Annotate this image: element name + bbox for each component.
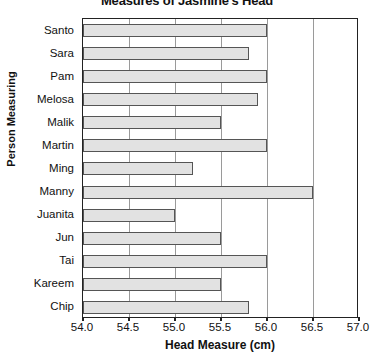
x-axis-tick-label: 56.5 bbox=[290, 321, 334, 333]
y-axis-tick-label: Santo bbox=[0, 24, 74, 36]
bar-row bbox=[83, 204, 357, 227]
plot-area bbox=[82, 18, 358, 318]
y-axis-tick-label: Chip bbox=[0, 300, 74, 312]
y-axis-tick-label: Juanita bbox=[0, 208, 74, 220]
y-axis-tick-label: Sara bbox=[0, 47, 74, 59]
x-axis-tick-label: 54.5 bbox=[106, 321, 150, 333]
bar-row bbox=[83, 181, 357, 204]
y-axis-tick-label: Martin bbox=[0, 139, 74, 151]
bar bbox=[83, 116, 221, 129]
x-axis-tick-label: 55.5 bbox=[198, 321, 242, 333]
bar-row bbox=[83, 250, 357, 273]
y-axis-tick-label: Ming bbox=[0, 162, 74, 174]
bar-row bbox=[83, 65, 357, 88]
y-axis-tick-label: Pam bbox=[0, 70, 74, 82]
bar bbox=[83, 255, 267, 268]
y-axis-tick-label: Melosa bbox=[0, 93, 74, 105]
bar-row bbox=[83, 157, 357, 180]
bar bbox=[83, 186, 313, 199]
y-axis-tick-label: Malik bbox=[0, 116, 74, 128]
bar-row bbox=[83, 273, 357, 296]
y-axis-tick-label: Jun bbox=[0, 231, 74, 243]
bar bbox=[83, 93, 258, 106]
y-axis-tick-label: Manny bbox=[0, 185, 74, 197]
chart-title: Measures of Jasmine's Head bbox=[0, 0, 374, 8]
bar bbox=[83, 278, 221, 291]
bar bbox=[83, 139, 267, 152]
x-axis-tick-labels: 54.054.555.055.556.056.557.0 bbox=[82, 321, 358, 337]
y-axis-tick-labels: SantoSaraPamMelosaMalikMartinMingMannyJu… bbox=[0, 18, 78, 318]
bar bbox=[83, 209, 175, 222]
x-axis-title: Head Measure (cm) bbox=[82, 338, 358, 352]
bar-chart: Measures of Jasmine's Head Person Measur… bbox=[0, 0, 374, 358]
x-axis-tick-label: 54.0 bbox=[60, 321, 104, 333]
bar-row bbox=[83, 134, 357, 157]
bar bbox=[83, 301, 249, 314]
x-axis-tick-label: 56.0 bbox=[244, 321, 288, 333]
bar-row bbox=[83, 19, 357, 42]
bar bbox=[83, 70, 267, 83]
x-axis-tick-label: 57.0 bbox=[336, 321, 374, 333]
y-axis-tick-label: Kareem bbox=[0, 277, 74, 289]
bar bbox=[83, 47, 249, 60]
x-axis-tick-label: 55.0 bbox=[152, 321, 196, 333]
bar bbox=[83, 162, 193, 175]
bar bbox=[83, 24, 267, 37]
bar-row bbox=[83, 42, 357, 65]
bar bbox=[83, 232, 221, 245]
bar-row bbox=[83, 296, 357, 319]
y-axis-tick-label: Tai bbox=[0, 254, 74, 266]
bar-row bbox=[83, 227, 357, 250]
bar-row bbox=[83, 111, 357, 134]
bar-row bbox=[83, 88, 357, 111]
